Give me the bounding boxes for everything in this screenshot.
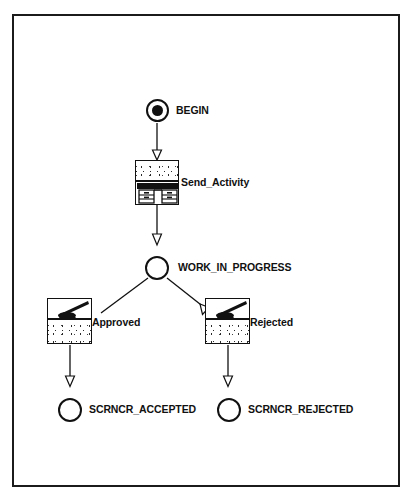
edge-rejected-to-scrncr-rejected bbox=[224, 345, 233, 387]
node-label-begin: BEGIN bbox=[176, 104, 209, 116]
edge-send-activity-to-work-in-progress bbox=[153, 205, 162, 245]
activity-document-icon bbox=[135, 160, 179, 181]
node-label-work-in-progress: WORK_IN_PROGRESS bbox=[178, 261, 291, 273]
state-circle-icon bbox=[145, 256, 169, 280]
signing-hand-icon bbox=[205, 298, 250, 319]
node-label-scrncr-rejected: SCRNCR_REJECTED bbox=[248, 403, 353, 415]
node-label-scrncr-accepted: SCRNCR_ACCEPTED bbox=[89, 403, 196, 415]
edge-layer bbox=[0, 0, 412, 502]
node-label-send-activity: Send_Activity bbox=[181, 176, 249, 188]
node-send-activity[interactable] bbox=[135, 160, 179, 205]
node-label-approved: Approved bbox=[92, 316, 140, 328]
state-circle-icon bbox=[217, 398, 241, 422]
edge-work-in-progress-to-approved bbox=[101, 278, 148, 313]
state-circle-icon bbox=[58, 398, 82, 422]
activity-document-icon bbox=[205, 319, 250, 344]
edge-approved-to-scrncr-accepted bbox=[66, 345, 75, 387]
edge-work-in-progress-to-rejected bbox=[167, 278, 209, 315]
diagram-canvas: BEGIN Send_Activity WORK_IN_PROGRE bbox=[0, 0, 412, 502]
desk-activity-icon bbox=[135, 181, 179, 205]
signing-hand-icon bbox=[47, 298, 92, 319]
edge-begin-to-send-activity bbox=[153, 123, 162, 160]
node-rejected[interactable] bbox=[205, 298, 250, 344]
node-label-rejected: Rejected bbox=[250, 316, 293, 328]
activity-document-icon bbox=[47, 319, 92, 344]
node-approved[interactable] bbox=[47, 298, 92, 344]
start-state-dot-icon bbox=[152, 105, 163, 116]
